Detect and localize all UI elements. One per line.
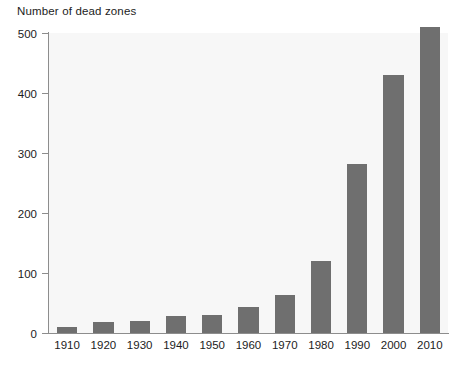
y-axis-tick: 0 <box>42 333 48 334</box>
bar-slot <box>420 33 440 333</box>
chart-title: Number of dead zones <box>17 5 136 17</box>
y-axis-tick-label: 0 <box>31 328 37 340</box>
bar-slot <box>166 33 186 333</box>
bar <box>347 164 367 333</box>
bar-chart-figure: Number of dead zones 0100200300400500 19… <box>0 0 461 366</box>
y-axis-tick: 400 <box>42 93 48 94</box>
x-axis-tick-label: 2000 <box>375 339 411 351</box>
x-axis-tick-label: 1910 <box>49 339 85 351</box>
bar-slot <box>311 33 331 333</box>
y-axis-tick: 300 <box>42 153 48 154</box>
y-axis-tick-label: 200 <box>18 208 37 220</box>
y-axis-tick-label: 300 <box>18 148 37 160</box>
y-axis-tick: 500 <box>42 33 48 34</box>
x-axis: 1910192019301940195019601970198019902000… <box>49 339 448 359</box>
x-axis-tick-label: 1970 <box>267 339 303 351</box>
bar-slot <box>130 33 150 333</box>
bar <box>238 307 258 333</box>
y-axis-tick-label: 100 <box>18 268 37 280</box>
bar-slot <box>275 33 295 333</box>
bars-layer <box>49 33 448 333</box>
y-axis-tick-label: 400 <box>18 88 37 100</box>
x-axis-tick-label: 1990 <box>339 339 375 351</box>
bar <box>93 322 113 333</box>
y-axis-tick: 100 <box>42 273 48 274</box>
bar <box>57 327 77 333</box>
x-axis-tick-label: 1960 <box>230 339 266 351</box>
bar <box>166 316 186 333</box>
x-axis-tick-label: 2010 <box>412 339 448 351</box>
bar <box>202 315 222 333</box>
bar <box>275 295 295 333</box>
x-axis-tick-label: 1950 <box>194 339 230 351</box>
bar-slot <box>347 33 367 333</box>
bar-slot <box>57 33 77 333</box>
x-axis-tick-label: 1940 <box>158 339 194 351</box>
bar-slot <box>383 33 403 333</box>
bar <box>420 27 440 333</box>
x-axis-tick-label: 1920 <box>85 339 121 351</box>
y-axis-tick-label: 500 <box>18 28 37 40</box>
bar-slot <box>93 33 113 333</box>
bar <box>383 75 403 333</box>
y-axis-tick: 200 <box>42 213 48 214</box>
bar-slot <box>238 33 258 333</box>
x-axis-tick-label: 1980 <box>303 339 339 351</box>
bar <box>311 261 331 333</box>
bar-slot <box>202 33 222 333</box>
x-axis-tick-label: 1930 <box>122 339 158 351</box>
bar <box>130 321 150 333</box>
